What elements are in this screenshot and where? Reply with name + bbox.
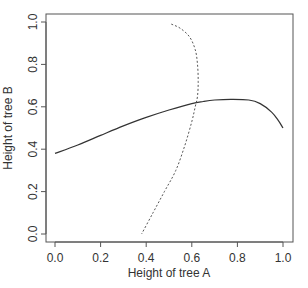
x-tick-label: 0.8 xyxy=(229,251,246,265)
x-tick-label: 0.2 xyxy=(92,251,109,265)
y-tick-label: 0.0 xyxy=(26,225,40,242)
plot-frame xyxy=(46,14,293,242)
chart-svg: 0.00.20.40.60.81.0 0.00.20.40.60.81.0 He… xyxy=(0,0,308,288)
x-axis: 0.00.20.40.60.81.0 xyxy=(47,242,292,265)
y-tick-label: 0.6 xyxy=(26,98,40,115)
y-tick-label: 1.0 xyxy=(26,13,40,30)
y-tick-label: 0.4 xyxy=(26,141,40,158)
x-axis-label: Height of tree A xyxy=(128,266,211,280)
series-solid-line xyxy=(55,99,283,153)
x-tick-label: 1.0 xyxy=(275,251,292,265)
x-tick-label: 0.0 xyxy=(47,251,64,265)
y-tick-label: 0.8 xyxy=(26,56,40,73)
series-dashed-line xyxy=(142,24,199,234)
y-axis: 0.00.20.40.60.81.0 xyxy=(26,13,46,242)
chart: 0.00.20.40.60.81.0 0.00.20.40.60.81.0 He… xyxy=(0,0,308,288)
y-axis-label: Height of tree B xyxy=(1,86,15,169)
x-tick-label: 0.6 xyxy=(183,251,200,265)
series-layer xyxy=(55,24,283,234)
x-tick-label: 0.4 xyxy=(138,251,155,265)
y-tick-label: 0.2 xyxy=(26,183,40,200)
